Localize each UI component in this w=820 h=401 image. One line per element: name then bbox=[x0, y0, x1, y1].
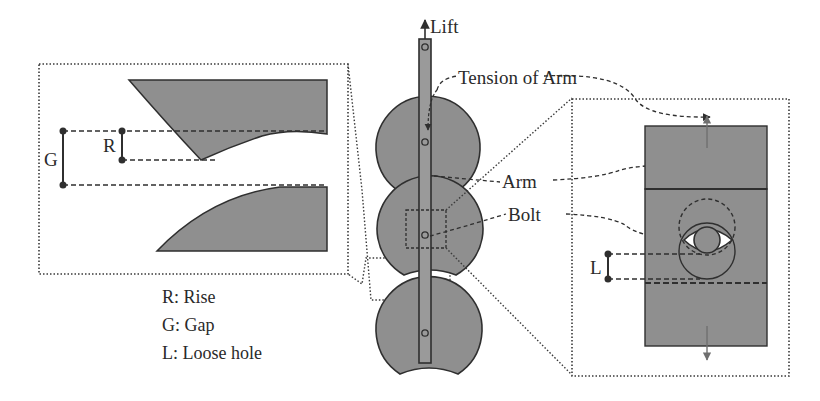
bolt-head bbox=[694, 227, 720, 253]
lower-disc-profile bbox=[157, 187, 327, 251]
right-detail-box bbox=[572, 99, 789, 376]
lift-label: Lift bbox=[430, 17, 459, 36]
arm-label: Arm bbox=[502, 172, 537, 191]
rise-dimension bbox=[119, 128, 126, 164]
legend-item-loose-hole: L: Loose hole bbox=[162, 344, 262, 362]
gap-dim-label: G bbox=[44, 150, 58, 169]
legend: R: Rise G: Gap L: Loose hole bbox=[162, 288, 262, 362]
diagram-canvas bbox=[0, 0, 820, 401]
center-assembly bbox=[376, 0, 483, 374]
bolt-label: Bolt bbox=[508, 205, 541, 224]
loose-hole-dim-label: L bbox=[590, 258, 602, 277]
tension-of-arm-label: Tension of Arm bbox=[458, 68, 577, 87]
rise-dim-label: R bbox=[103, 136, 116, 155]
arm-bar bbox=[419, 39, 431, 363]
arm-plate-lower bbox=[645, 189, 767, 346]
legend-item-rise: R: Rise bbox=[162, 288, 262, 306]
gap-dimension bbox=[60, 128, 67, 189]
upper-disc-profile bbox=[129, 80, 327, 160]
loose-hole-dimension bbox=[605, 251, 612, 283]
arm-plate-upper bbox=[645, 126, 767, 189]
legend-item-gap: G: Gap bbox=[162, 316, 262, 334]
